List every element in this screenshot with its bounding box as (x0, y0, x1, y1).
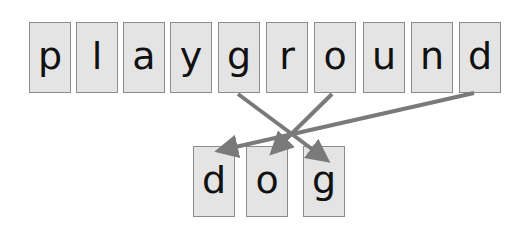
arrow-g-to-g (238, 94, 324, 158)
arrow-d-to-d (222, 93, 474, 150)
arrows-layer (0, 0, 528, 228)
